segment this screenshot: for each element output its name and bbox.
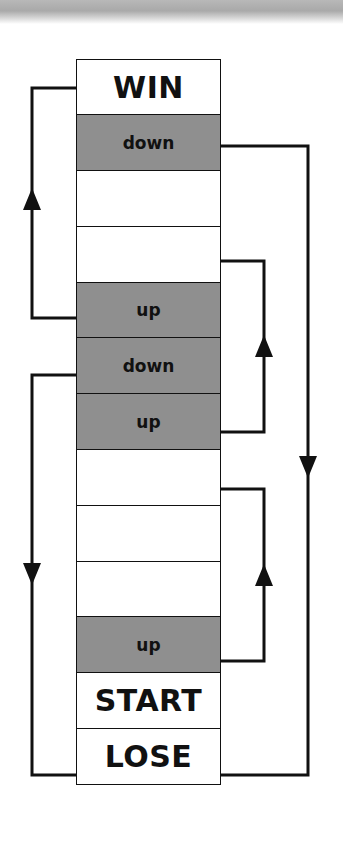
cell-blank	[76, 226, 221, 283]
cell-up: up	[76, 616, 221, 673]
arrow-down-icon	[23, 563, 41, 585]
cell-blank	[76, 170, 221, 227]
cell-label: down	[123, 356, 175, 376]
cell-label: up	[136, 412, 160, 432]
cell-blank	[76, 449, 221, 506]
cell-label: up	[136, 300, 160, 320]
arrow-up-icon	[255, 335, 273, 357]
cell-label: LOSE	[105, 739, 193, 774]
cell-label: up	[136, 635, 160, 655]
cell-start: START	[76, 672, 221, 729]
connector-down-to-lose-left	[32, 375, 76, 775]
cell-down: down	[76, 337, 221, 394]
board-column: WIN down up down up up START LOSE	[76, 60, 221, 785]
cell-up: up	[76, 282, 221, 339]
cell-lose: LOSE	[76, 728, 221, 785]
cell-win: WIN	[76, 59, 221, 116]
cell-down: down	[76, 114, 221, 171]
arrow-up-icon	[23, 188, 41, 210]
connector-up-to-row7	[221, 489, 264, 661]
cell-blank	[76, 505, 221, 562]
cell-blank	[76, 561, 221, 618]
cell-label: WIN	[113, 70, 184, 105]
arrow-up-icon	[255, 564, 273, 586]
connector-down-to-lose-right	[221, 146, 308, 775]
cell-label: down	[123, 133, 175, 153]
connector-up-to-win	[32, 88, 76, 318]
cell-label: START	[95, 683, 203, 718]
connector-up-to-row3	[221, 261, 264, 432]
arrow-down-icon	[299, 456, 317, 478]
cell-up: up	[76, 393, 221, 450]
